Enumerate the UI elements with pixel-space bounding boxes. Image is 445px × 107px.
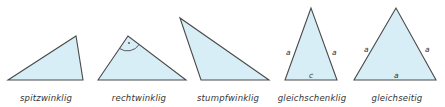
caption-acute: spitzwinklig [20,93,72,103]
caption-right: rechtwinklig [112,93,166,103]
isosceles-triangle [285,8,337,80]
equilateral-right-side-label: a [425,45,430,54]
caption-equilateral: gleichseitig [372,93,423,103]
triangle-types-diagram: a a c a a a [0,0,445,107]
obtuse-triangle [180,18,269,80]
isosceles-left-side-label: a [286,48,291,57]
caption-isosceles: gleichschenklig [278,93,347,103]
right-angle-dot-icon [128,42,130,44]
right-triangle [98,36,186,80]
acute-triangle [8,36,83,80]
equilateral-triangle [354,8,436,80]
caption-obtuse: stumpfwinklig [197,93,259,103]
equilateral-base-label: a [394,71,399,80]
isosceles-right-side-label: a [332,48,337,57]
equilateral-left-side-label: a [364,45,369,54]
